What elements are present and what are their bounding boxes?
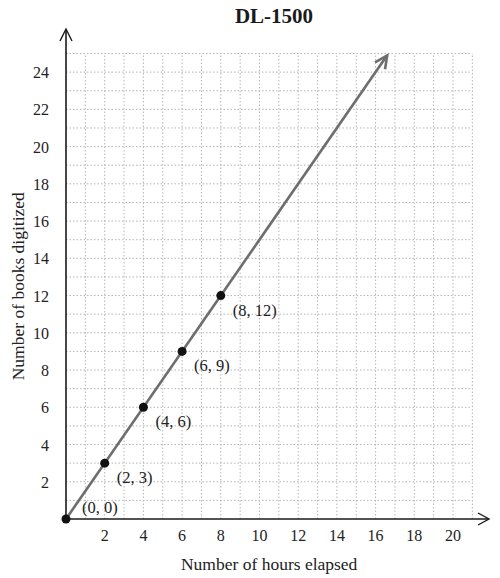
data-point [100, 459, 109, 468]
x-tick-label: 12 [290, 527, 306, 544]
x-tick-label: 18 [406, 527, 422, 544]
data-point [139, 403, 148, 412]
y-tick-label: 16 [33, 213, 49, 230]
y-tick-label: 8 [41, 362, 49, 379]
x-tick-label: 2 [101, 527, 109, 544]
y-tick-label: 4 [41, 437, 49, 454]
series-line [66, 55, 387, 519]
x-tick-label: 20 [445, 527, 461, 544]
x-tick-label: 4 [139, 527, 147, 544]
y-axis-label: Number of books digitized [8, 192, 28, 380]
x-tick-label: 10 [252, 527, 268, 544]
data-point [62, 515, 71, 524]
y-tick-label: 6 [41, 399, 49, 416]
x-tick-label: 16 [368, 527, 384, 544]
data-point [178, 347, 187, 356]
data-point-label: (6, 9) [194, 356, 230, 375]
data-point [216, 291, 225, 300]
x-tick-label: 8 [217, 527, 225, 544]
x-tick-label: 14 [329, 527, 345, 544]
y-tick-label: 24 [33, 64, 49, 81]
data-point-label: (2, 3) [117, 468, 153, 487]
y-tick-label: 20 [33, 139, 49, 156]
data-point-label: (0, 0) [82, 498, 118, 517]
y-tick-label: 14 [33, 250, 49, 267]
data-point-label: (8, 12) [233, 301, 277, 320]
y-tick-label: 22 [33, 101, 49, 118]
y-tick-label: 10 [33, 325, 49, 342]
y-tick-label: 2 [41, 474, 49, 491]
line-chart: 246810121416182024681012141618202224Numb… [0, 0, 500, 578]
x-axis-label: Number of hours elapsed [181, 554, 358, 574]
y-tick-label: 12 [33, 288, 49, 305]
data-point-label: (4, 6) [155, 412, 191, 431]
x-tick-label: 6 [178, 527, 186, 544]
y-tick-label: 18 [33, 176, 49, 193]
